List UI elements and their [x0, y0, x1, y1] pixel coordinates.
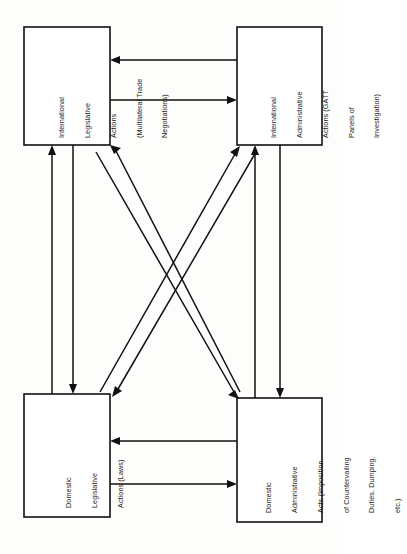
node-international-legislative[interactable]: [24, 27, 110, 145]
edge-intl-leg-to-intl-admin: [110, 96, 237, 104]
edge-dom-leg-to-intl-leg: [48, 145, 56, 394]
node-international-administrative[interactable]: [237, 27, 322, 145]
label-line: Duties, Dumping,: [368, 456, 377, 513]
node-domestic-legislative[interactable]: [24, 394, 110, 517]
label-line: of Countervailing: [343, 456, 352, 513]
label-line: Investigation): [373, 90, 382, 138]
edge-dom-admin-to-dom-leg: [110, 437, 237, 445]
edge-dom-admin-to-intl-leg: [110, 145, 240, 392]
edge-dom-leg-to-intl-admin: [100, 146, 240, 392]
edge-intl-leg-to-dom-leg: [69, 145, 77, 394]
label-line: etc.): [394, 456, 403, 513]
edge-dom-leg-to-dom-admin: [110, 480, 237, 488]
edge-intl-admin-to-dom-admin: [276, 145, 284, 398]
label-line: Panels of: [348, 90, 357, 138]
edge-intl-admin-to-intl-leg: [110, 56, 237, 64]
edge-dom-admin-to-intl-admin: [251, 145, 259, 398]
node-domestic-administrative[interactable]: [237, 398, 322, 522]
edge-intl-admin-to-dom-leg: [112, 152, 256, 397]
